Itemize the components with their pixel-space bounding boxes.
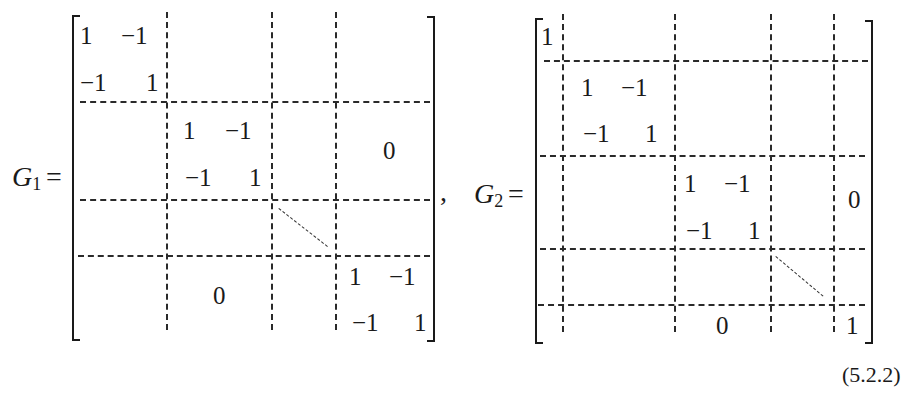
g1-b2-c: −1: [185, 165, 212, 190]
g1-bn-b: −1: [389, 264, 416, 289]
g2-b1-c: −1: [583, 121, 610, 146]
g1-bn-a: 1: [349, 264, 362, 289]
g2-upper-zero: 0: [848, 187, 861, 212]
g2-equals: =: [508, 180, 524, 208]
g1-hline-2: [80, 199, 430, 201]
g1-upper-zero: 0: [383, 138, 396, 163]
g1-left-bracket: [72, 15, 80, 341]
g1-right-bracket: [427, 16, 435, 342]
g1-equals: =: [46, 163, 62, 191]
g2-label: G2: [474, 180, 503, 210]
g2-hline-1: [544, 60, 868, 62]
g2-left-bracket: [535, 18, 543, 344]
g1-vline-1: [166, 12, 168, 330]
g2-b2-d: 1: [748, 218, 761, 243]
g1-b2-d: 1: [249, 165, 262, 190]
g2-label-base: G: [474, 178, 494, 209]
g1-bn-d: 1: [414, 310, 427, 335]
g1-b1-a: 1: [80, 23, 93, 48]
g1-b1-b: −1: [121, 23, 148, 48]
g1-label-base: G: [12, 161, 32, 192]
g2-right-bracket: [865, 20, 873, 344]
g1-bn-c: −1: [352, 310, 379, 335]
g2-label-sub: 2: [494, 191, 503, 211]
g2-b2-a: 1: [684, 171, 697, 196]
g1-b2-a: 1: [183, 118, 196, 143]
g2-hline-3: [540, 248, 865, 250]
g2-diagonal-dots: [775, 256, 823, 297]
g1-b1-c: −1: [80, 70, 107, 95]
g2-hline-4: [538, 304, 865, 306]
g2-hline-2: [540, 155, 865, 157]
g1-b1-d: 1: [146, 70, 159, 95]
g1-b2-b: −1: [225, 118, 252, 143]
g1-label-sub: 1: [32, 174, 41, 194]
g2-b1-b: −1: [621, 75, 648, 100]
g1-vline-2: [271, 12, 273, 330]
g1-label: G1: [12, 163, 41, 193]
g2-top-left: 1: [541, 24, 554, 49]
g2-lower-zero: 0: [716, 313, 729, 338]
separator-comma: ,: [440, 178, 447, 206]
g2-b1-a: 1: [581, 75, 594, 100]
g1-diagonal-dots: [278, 208, 327, 247]
g2-bottom-right: 1: [846, 313, 859, 338]
g2-b1-d: 1: [645, 121, 658, 146]
g1-hline-3: [78, 255, 430, 257]
g1-vline-3: [335, 12, 337, 330]
g2-b2-c: −1: [686, 218, 713, 243]
g2-b2-b: −1: [724, 171, 751, 196]
g1-lower-zero: 0: [213, 283, 226, 308]
equation-number: (5.2.2): [842, 364, 901, 386]
g1-hline-1: [80, 101, 430, 103]
